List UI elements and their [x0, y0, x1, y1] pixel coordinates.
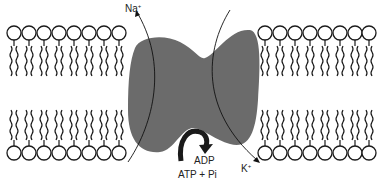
right-bottom-leaflet: [258, 110, 376, 160]
membrane-diagram: [0, 0, 381, 184]
atp-label: ATP + Pi: [178, 170, 217, 180]
left-top-leaflet: [7, 26, 126, 76]
adp-label: ADP: [194, 156, 215, 166]
pump-protein: [128, 30, 260, 152]
potassium-label: K+: [241, 164, 251, 174]
right-top-leaflet: [258, 26, 376, 76]
right-bilayer: [258, 26, 376, 160]
left-bilayer: [7, 26, 126, 160]
left-bottom-leaflet: [7, 110, 126, 160]
sodium-label: Na+: [125, 4, 141, 14]
atp-arrowhead-icon: [199, 144, 213, 154]
